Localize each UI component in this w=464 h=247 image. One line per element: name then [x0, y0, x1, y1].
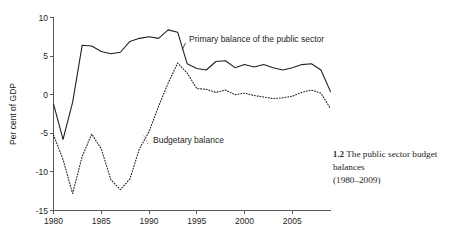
y-axis-title: Per cent of GDP — [8, 83, 18, 145]
annotation-budgetary-balance: Budgetary balance — [153, 135, 224, 145]
x-tick-label: 1980 — [44, 216, 63, 226]
y-tick-label: -5 — [40, 128, 48, 138]
figure-container: -15-10-50510198019851990199520002005Per … — [0, 0, 464, 247]
caption-title: The public sector budget balances — [333, 149, 437, 172]
series-line-primary-balance — [54, 30, 331, 140]
y-tick-label: 10 — [39, 13, 49, 23]
chart-axes: -15-10-50510198019851990199520002005Per … — [8, 13, 331, 226]
x-tick-label: 2000 — [235, 216, 254, 226]
y-tick-label: -15 — [36, 206, 49, 216]
x-tick-label: 1990 — [140, 216, 159, 226]
chart-series — [54, 30, 331, 194]
caption-number: 1.2 — [333, 150, 344, 159]
x-tick-label: 2005 — [283, 216, 302, 226]
y-tick-label: 5 — [43, 51, 48, 61]
y-tick-label: -10 — [36, 167, 49, 177]
y-tick-label: 0 — [43, 90, 48, 100]
x-tick-label: 1995 — [187, 216, 206, 226]
x-tick-label: 1985 — [92, 216, 111, 226]
chart-plot: -15-10-50510198019851990199520002005Per … — [0, 0, 464, 247]
chart-annotations: Primary balance of the public sectorBudg… — [143, 34, 324, 145]
caption-years: (1980–2009) — [333, 174, 457, 187]
annotation-primary-balance: Primary balance of the public sector — [189, 34, 324, 44]
figure-caption: 1.2 The public sector budget balances (1… — [333, 148, 457, 188]
series-line-budgetary-balance — [54, 63, 331, 193]
